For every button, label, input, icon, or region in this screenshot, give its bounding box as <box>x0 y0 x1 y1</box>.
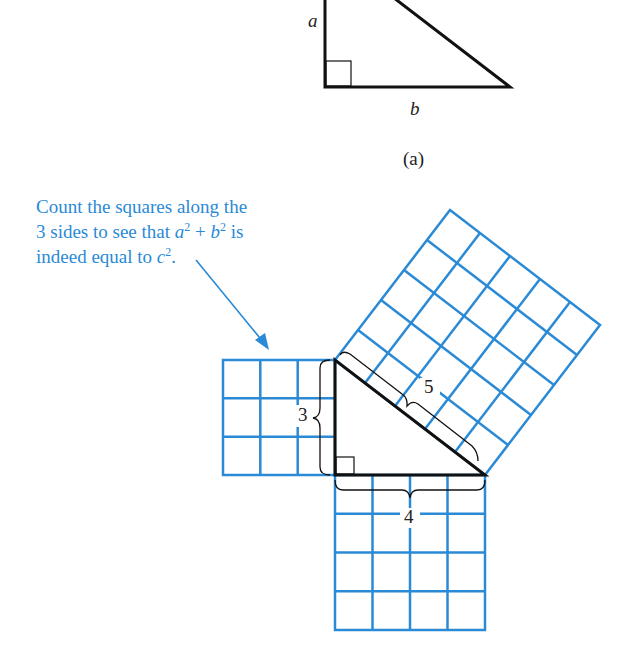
triangle-b <box>335 360 485 475</box>
label-side-b: b <box>410 98 420 120</box>
right-angle-marker-a <box>326 61 351 86</box>
brace-left <box>313 360 330 475</box>
square-grid-5 <box>335 210 600 475</box>
square-grid-4 <box>335 475 485 630</box>
triangle-a <box>325 0 510 87</box>
label-side-4: 4 <box>404 506 414 528</box>
annotation-line-2: 3 sides to see that a2 + b2 is <box>36 217 276 242</box>
right-angle-marker-b <box>336 457 354 474</box>
label-side-a: a <box>308 10 318 32</box>
figure-caption-a: (a) <box>403 148 424 170</box>
label-side-3: 3 <box>298 404 308 426</box>
square-grid-3 <box>223 360 335 475</box>
label-side-5: 5 <box>424 376 434 398</box>
annotation-arrow <box>196 260 269 350</box>
annotation-text: Count the squares along the 3 sides to s… <box>36 196 276 268</box>
diagram-canvas <box>0 0 625 657</box>
annotation-line-1: Count the squares along the <box>36 196 276 217</box>
annotation-line-3: indeed equal to c2. <box>36 242 276 267</box>
